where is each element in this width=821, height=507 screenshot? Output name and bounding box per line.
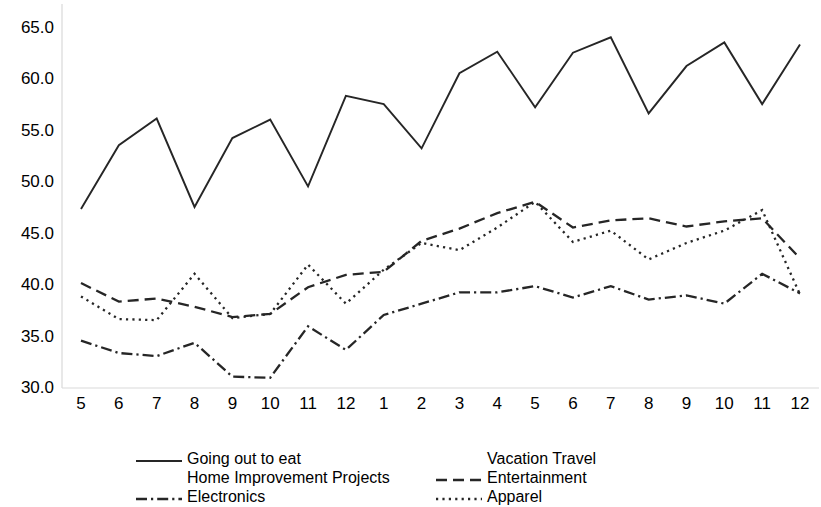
legend-item-label: Electronics	[187, 487, 265, 506]
legend-line-sample-icon	[435, 491, 483, 503]
plot-area	[0, 0, 821, 507]
legend-item-vacation-travel[interactable]: Vacation Travel	[435, 449, 596, 468]
series-line-going-out-to-eat	[81, 37, 800, 209]
x-tick-label: 9	[666, 395, 706, 412]
legend-item-label: Going out to eat	[187, 449, 301, 468]
x-tick-label: 5	[515, 395, 555, 412]
legend-item-home-improvement-projects[interactable]: Home Improvement Projects	[135, 468, 390, 487]
legend-item-entertainment[interactable]: Entertainment	[435, 468, 587, 487]
legend-row: Going out to eatVacation Travel	[135, 449, 735, 468]
y-tick-label: 40.0	[0, 276, 54, 293]
legend-item-label: Vacation Travel	[487, 449, 596, 468]
y-tick-label: 30.0	[0, 379, 54, 396]
x-tick-label: 8	[175, 395, 215, 412]
x-tick-label: 4	[477, 395, 517, 412]
legend-row: Home Improvement ProjectsEntertainment	[135, 468, 735, 487]
legend-line-sample-icon	[135, 491, 183, 503]
legend-item-apparel[interactable]: Apparel	[435, 487, 542, 506]
x-tick-label: 5	[61, 395, 101, 412]
x-tick-label: 10	[250, 395, 290, 412]
x-tick-label: 12	[326, 395, 366, 412]
x-tick-label: 1	[364, 395, 404, 412]
y-tick-label: 35.0	[0, 328, 54, 345]
y-tick-label: 50.0	[0, 173, 54, 190]
y-tick-label: 60.0	[0, 70, 54, 87]
series-line-apparel	[81, 202, 800, 320]
x-tick-label: 2	[402, 395, 442, 412]
legend-row: ElectronicsApparel	[135, 487, 735, 506]
x-tick-label: 8	[629, 395, 669, 412]
y-tick-label: 45.0	[0, 225, 54, 242]
x-tick-label: 7	[137, 395, 177, 412]
legend-item-electronics[interactable]: Electronics	[135, 487, 265, 506]
x-tick-label: 10	[704, 395, 744, 412]
chart-legend: Going out to eatVacation TravelHome Impr…	[135, 449, 735, 505]
x-tick-label: 11	[742, 395, 782, 412]
legend-line-sample-icon	[435, 472, 483, 484]
x-tick-label: 11	[288, 395, 328, 412]
x-tick-label: 3	[439, 395, 479, 412]
y-tick-label: 65.0	[0, 19, 54, 36]
legend-item-label: Home Improvement Projects	[187, 468, 390, 487]
legend-line-sample-icon	[135, 453, 183, 465]
x-tick-label: 12	[780, 395, 820, 412]
legend-item-label: Entertainment	[487, 468, 587, 487]
x-tick-label: 9	[212, 395, 252, 412]
line-chart: 65.060.055.050.045.040.035.030.0 5678910…	[0, 0, 821, 507]
y-tick-label: 55.0	[0, 122, 54, 139]
series-line-entertainment	[81, 202, 800, 317]
legend-item-going-out-to-eat[interactable]: Going out to eat	[135, 449, 301, 468]
legend-item-label: Apparel	[487, 487, 542, 506]
x-tick-label: 6	[99, 395, 139, 412]
series-line-electronics	[81, 274, 800, 378]
x-tick-label: 6	[553, 395, 593, 412]
x-tick-label: 7	[591, 395, 631, 412]
